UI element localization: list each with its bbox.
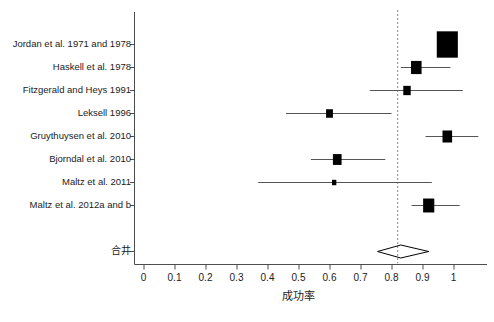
study-label: Gruythuysen et al. 2010 bbox=[30, 131, 131, 141]
study-rows bbox=[258, 31, 478, 212]
effect-box bbox=[332, 180, 336, 185]
forest-plot: Jordan et al. 1971 and 1978Haskell et al… bbox=[0, 0, 494, 322]
x-tick-label: 0.9 bbox=[416, 273, 430, 283]
effect-box bbox=[326, 109, 333, 118]
x-tick-label: 0.8 bbox=[385, 273, 399, 283]
study-label: Fitzgerald and Heys 1991 bbox=[23, 85, 131, 95]
study-label: Haskell et al. 1978 bbox=[53, 62, 131, 72]
x-axis-title: 成功率 bbox=[282, 291, 315, 302]
x-tick-label: 0.6 bbox=[323, 273, 337, 283]
x-tick-label: 0 bbox=[141, 273, 147, 283]
effect-box bbox=[333, 154, 342, 165]
effect-box bbox=[442, 130, 452, 142]
x-tick-label: 0.1 bbox=[168, 273, 182, 283]
effect-box bbox=[403, 86, 410, 95]
effect-box bbox=[411, 61, 422, 74]
effect-box bbox=[437, 31, 458, 57]
study-label: Bjorndal et al. 2010 bbox=[49, 154, 131, 164]
x-tick-label: 1 bbox=[451, 273, 457, 283]
x-tick-label: 0.3 bbox=[230, 273, 244, 283]
study-label: Jordan et al. 1971 and 1978 bbox=[13, 39, 131, 49]
pooled-label: 合井 bbox=[111, 246, 131, 256]
x-tick-label: 0.7 bbox=[354, 273, 368, 283]
effect-box bbox=[423, 199, 434, 213]
study-label: Maltz et al. 2011 bbox=[62, 177, 131, 187]
pooled-diamond-shape bbox=[378, 245, 429, 258]
x-tick-label: 0.5 bbox=[292, 273, 306, 283]
x-tick-label: 0.4 bbox=[261, 273, 275, 283]
x-tick-label: 0.2 bbox=[199, 273, 213, 283]
study-label: Leksell 1996 bbox=[78, 108, 131, 118]
plot-axes bbox=[130, 12, 487, 270]
pooled-diamond bbox=[378, 245, 429, 258]
study-label: Maltz et al. 2012a and b bbox=[30, 200, 131, 210]
